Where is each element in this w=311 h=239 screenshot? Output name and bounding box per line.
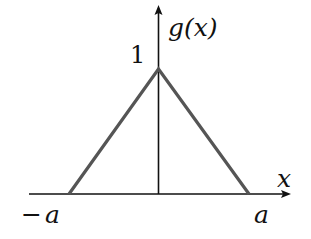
neg-a-minus-sign: −	[21, 200, 42, 229]
pos-a-label: a	[254, 200, 269, 229]
y-axis-label: g(x)	[168, 13, 218, 42]
peak-value-label: 1	[130, 41, 145, 69]
triangle-function-diagram: g(x) 1 x − a a	[0, 0, 311, 239]
neg-a-label: a	[45, 200, 60, 229]
diagram-canvas: g(x) 1 x − a a	[0, 0, 311, 239]
x-axis-label: x	[277, 164, 291, 193]
